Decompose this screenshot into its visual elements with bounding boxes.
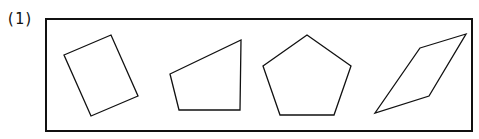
diagram: (1) — [0, 0, 479, 139]
trapezoid-shape — [170, 40, 241, 110]
pentagon-shape — [263, 35, 351, 115]
rectangle-shape — [64, 35, 138, 116]
parallelogram-shape — [375, 34, 466, 113]
shapes-figure — [0, 0, 479, 139]
